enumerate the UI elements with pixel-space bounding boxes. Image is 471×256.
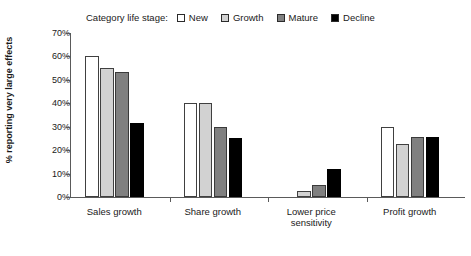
y-tick-label: 60% [30,51,70,61]
plot-area [71,33,465,197]
y-tick-label: 70% [30,28,70,38]
bar-new [381,127,395,197]
y-tick-mark [66,150,70,151]
bar-mature [312,185,326,197]
bar-growth [199,103,213,197]
legend-item-decline: Decline [331,12,375,23]
bar-decline [426,137,440,197]
x-axis-group-separator [170,197,171,202]
x-axis-category-line: Profit growth [350,206,470,217]
chart-legend: Category life stage: New Growth Mature D… [86,12,388,23]
x-axis-group-separator [268,197,269,202]
x-axis-category-label: Profit growth [350,206,470,217]
legend-label-decline: Decline [343,12,375,23]
y-tick-mark [66,197,70,198]
bar-chart: Category life stage: New Growth Mature D… [0,0,471,256]
bar-new [184,103,198,197]
y-tick-mark [66,103,70,104]
bar-growth [100,68,114,197]
y-tick-mark [66,56,70,57]
legend-label-mature: Mature [289,12,319,23]
y-axis-title: % reporting very large effects [2,0,16,200]
legend-item-new: New [177,12,208,23]
legend-item-mature: Mature [277,12,319,23]
bar-decline [229,138,243,197]
y-tick-label: 30% [30,122,70,132]
y-axis-title-text: % reporting very large effects [4,37,14,164]
y-tick-label: 20% [30,145,70,155]
y-tick-mark [66,127,70,128]
bar-new [85,56,99,197]
bar-growth [297,191,311,197]
bar-decline [130,123,144,197]
bar-mature [214,127,228,197]
y-tick-label: 0% [30,192,70,202]
bar-mature [411,137,425,197]
bar-decline [327,169,341,197]
legend-label-growth: Growth [233,12,264,23]
legend-swatch-new [177,14,185,22]
bar-growth [396,144,410,197]
y-tick-label: 50% [30,75,70,85]
legend-swatch-growth [221,14,229,22]
legend-swatch-mature [277,14,285,22]
legend-item-growth: Growth [221,12,264,23]
y-tick-label: 10% [30,169,70,179]
bar-mature [115,72,129,197]
legend-title: Category life stage: [86,12,168,23]
legend-swatch-decline [331,14,339,22]
x-axis-group-separator [367,197,368,202]
legend-label-new: New [189,12,208,23]
y-tick-mark [66,174,70,175]
x-axis-category-line: sensitivity [251,217,371,228]
y-tick-label: 40% [30,98,70,108]
y-tick-mark [66,80,70,81]
y-tick-mark [66,33,70,34]
